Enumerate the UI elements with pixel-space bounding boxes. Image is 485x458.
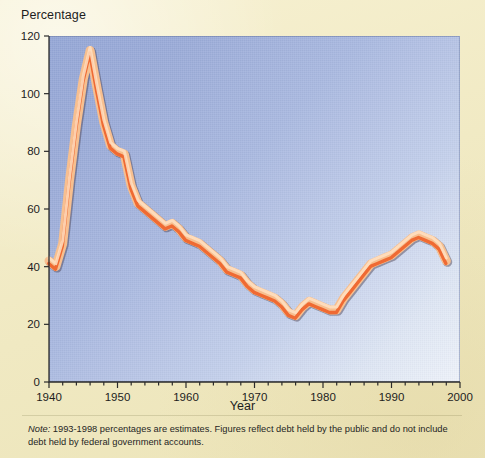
series-shadow [50, 52, 447, 317]
y-tick-label: 20 [27, 318, 40, 330]
chart-figure: Percentage 02040608010012019401950196019… [0, 0, 485, 458]
y-tick-label: 100 [21, 88, 40, 100]
series-halo [49, 50, 446, 315]
figure-note: Note: 1993-1998 percentages are estimate… [28, 423, 458, 450]
tick-label-layer: 0204060801001201940195019601970198019902… [21, 30, 473, 403]
data-series-layer [49, 47, 448, 318]
axis-layer [44, 36, 460, 388]
y-tick-label: 60 [27, 203, 40, 215]
chart-canvas: 0204060801001201940195019601970198019902… [0, 0, 485, 458]
note-label: Note: [28, 424, 50, 434]
y-tick-label: 0 [34, 376, 40, 388]
series-highlight [49, 47, 446, 312]
note-divider [22, 415, 462, 416]
note-body: 1993-1998 percentages are estimates. Fig… [28, 424, 448, 447]
y-tick-label: 40 [27, 261, 40, 273]
x-axis-title: Year [0, 399, 485, 413]
y-tick-label: 80 [27, 145, 40, 157]
y-tick-label: 120 [21, 30, 40, 42]
axis-spines [49, 36, 460, 382]
